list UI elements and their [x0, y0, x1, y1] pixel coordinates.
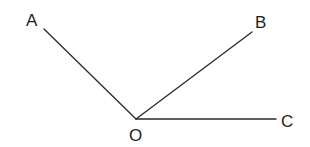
label-b: B: [255, 13, 266, 32]
label-a: A: [26, 11, 38, 30]
label-c: C: [281, 112, 293, 131]
angle-diagram: A B C O: [0, 0, 310, 147]
label-o: O: [129, 126, 142, 145]
ray-ob: [136, 32, 252, 119]
ray-oa: [44, 29, 136, 119]
